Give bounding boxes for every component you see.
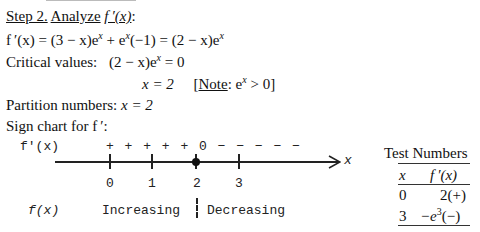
note-rhs: > 0] xyxy=(247,76,275,92)
tick-1 xyxy=(151,154,153,169)
step-action: Analyze xyxy=(51,8,101,24)
derivative-mid2: (−1) = (2 − x)e xyxy=(130,32,220,48)
row1-value-pre: −e xyxy=(420,208,437,224)
arrow-right-icon xyxy=(327,155,341,169)
critical-eq: (2 − x)e xyxy=(109,54,157,70)
derivative-lhs: f ′(x) = (3 − x)e xyxy=(6,32,98,48)
interval-increasing: Increasing xyxy=(102,203,180,219)
note-label: Note xyxy=(199,76,228,92)
test-numbers-title: Test Numbers xyxy=(384,144,468,162)
step-heading: Step 2. Analyze f ′(x): xyxy=(6,7,136,25)
exp: x xyxy=(219,30,223,41)
table-bottom-rule xyxy=(398,225,470,226)
step-function: f ′(x) xyxy=(104,8,131,24)
derivative-mid1: + e xyxy=(103,32,126,48)
table-row-1-value: −e3(−) xyxy=(420,207,460,225)
critical-solution-line: x = 2 [Note: ex > 0] xyxy=(142,75,275,93)
tick-0 xyxy=(109,154,111,169)
header-x: x xyxy=(399,167,406,183)
table-row-1-x: 3 xyxy=(399,207,407,225)
f-row-label: f(x) xyxy=(28,203,59,219)
step-label: Step 2. xyxy=(6,8,48,24)
tick-3 xyxy=(238,154,240,169)
cutoff-underline xyxy=(46,0,136,1)
tick-label-2: 2 xyxy=(193,176,201,192)
partition-value: x = 2 xyxy=(121,97,153,113)
derivative-equation: f ′(x) = (3 − x)ex + ex(−1) = (2 − x)ex xyxy=(6,31,224,49)
critical-values-line: Critical values: (2 − x)ex = 0 xyxy=(6,53,185,71)
tick-label-3: 3 xyxy=(235,176,243,192)
table-header-x: x xyxy=(399,166,406,184)
table-row-0-value: 2(+) xyxy=(440,186,466,204)
critical-rhs: = 0 xyxy=(161,54,184,70)
partition-label: Partition numbers: xyxy=(6,97,117,113)
row1-value-post: (−) xyxy=(442,208,460,224)
table-top-rule xyxy=(398,163,470,164)
note-text: : e xyxy=(228,76,243,92)
critical-point-dot xyxy=(192,158,200,166)
heading-colon: : xyxy=(131,8,135,24)
table-header-fprime: f ′(x) xyxy=(430,166,457,184)
header-fprime: f ′(x) xyxy=(430,167,457,183)
critical-divider xyxy=(196,198,198,218)
table-row-0-x: 0 xyxy=(399,186,407,204)
tick-label-1: 1 xyxy=(148,176,156,192)
interval-decreasing: Decreasing xyxy=(207,203,285,219)
critical-solution: x = 2 xyxy=(142,76,174,92)
sign-chart-title: Sign chart for f ′: xyxy=(6,117,108,135)
tick-label-0: 0 xyxy=(106,176,114,192)
table-header-rule xyxy=(398,184,470,185)
partition-line: Partition numbers: x = 2 xyxy=(6,96,153,114)
fprime-signs: + + + + + 0 − − − − − xyxy=(106,139,300,155)
fprime-row-label: f'(x) xyxy=(20,139,59,155)
critical-label: Critical values: xyxy=(6,54,97,70)
axis-x-label: x xyxy=(344,153,352,169)
